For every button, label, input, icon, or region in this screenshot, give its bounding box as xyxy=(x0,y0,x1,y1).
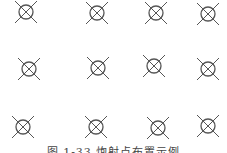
circle-cross-icon xyxy=(141,53,167,79)
circle-cross-icon xyxy=(85,55,111,81)
figure-caption: 图 1-33 炮射点布置示例 xyxy=(0,143,227,153)
circle-cross-icon xyxy=(83,114,109,140)
circle-cross-icon xyxy=(10,114,36,140)
circle-cross-icon xyxy=(195,56,221,82)
circle-cross-icon xyxy=(16,56,42,82)
circle-cross-icon xyxy=(195,1,221,27)
circle-cross-icon xyxy=(145,115,171,141)
circle-cross-icon xyxy=(195,113,221,139)
circle-cross-icon xyxy=(84,0,110,26)
circle-cross-icon xyxy=(13,0,39,25)
circle-cross-icon xyxy=(143,0,169,26)
